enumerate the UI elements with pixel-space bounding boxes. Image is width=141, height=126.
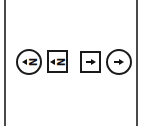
- square-dash-right-arrow-icon: [80, 51, 101, 73]
- right-triangle-icon: [119, 59, 124, 65]
- square-left-arrow-n-icon: N: [47, 50, 68, 73]
- symbol-glyph: N: [56, 57, 66, 65]
- frame-left-line: [4, 0, 6, 126]
- circle-left-arrow-n-icon: N: [16, 49, 42, 75]
- right-triangle-icon: [91, 59, 96, 65]
- left-triangle-icon: [22, 59, 27, 65]
- circle-dash-right-arrow-icon: [106, 49, 132, 75]
- frame-right-line: [136, 0, 138, 126]
- symbol-glyph: N: [27, 58, 37, 66]
